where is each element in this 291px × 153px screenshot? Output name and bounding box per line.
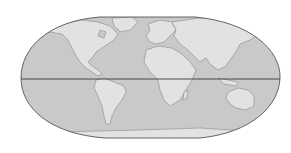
world-map <box>0 0 291 153</box>
